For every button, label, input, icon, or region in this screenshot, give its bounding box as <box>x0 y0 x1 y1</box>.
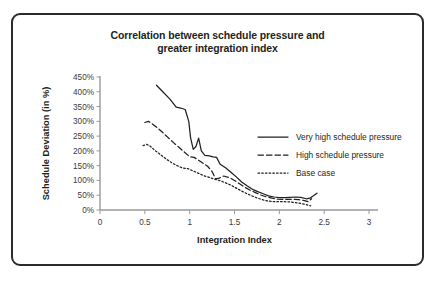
y-axis-tick-label: 250% <box>73 132 94 141</box>
y-axis-tick-label: 150% <box>73 162 94 171</box>
y-axis-tick-label: 50% <box>78 191 94 200</box>
chart-legend: Very high schedule pressureHigh schedule… <box>258 132 402 178</box>
x-axis-tick-label: 1.5 <box>229 218 241 227</box>
chart-figure-frame: Correlation between schedule pressure an… <box>11 13 424 266</box>
line-chart-svg: 0%50%100%150%200%250%300%350%400%450% 00… <box>13 15 426 268</box>
y-axis-tick-label: 350% <box>73 103 94 112</box>
legend-item-label: High schedule pressure <box>296 150 384 160</box>
x-axis-tick-label: 2 <box>277 218 282 227</box>
y-axis-tick-label: 400% <box>73 88 94 97</box>
legend-item-label: Very high schedule pressure <box>296 132 402 142</box>
y-axis-tick-label: 300% <box>73 117 94 126</box>
plot-area: 0%50%100%150%200%250%300%350%400%450% 00… <box>13 15 426 268</box>
x-axis-tick-label: 0 <box>98 218 103 227</box>
series-line-base-case <box>143 144 311 205</box>
x-axis-tick-label: 1 <box>187 218 192 227</box>
series-line-very-high-schedule-pressure <box>156 85 316 198</box>
x-axis: 00.511.522.53 <box>98 210 378 227</box>
legend-item-label: Base case <box>296 168 335 178</box>
y-axis-tick-label: 0% <box>82 206 94 215</box>
x-axis-tick-label: 3 <box>367 218 372 227</box>
x-axis-tick-label: 0.5 <box>139 218 151 227</box>
y-axis-tick-label: 100% <box>73 176 94 185</box>
x-axis-tick-label: 2.5 <box>318 218 330 227</box>
y-axis-tick-label: 450% <box>73 73 94 82</box>
x-axis-title: Integration Index <box>197 235 273 245</box>
data-series-group <box>143 85 317 206</box>
y-axis: 0%50%100%150%200%250%300%350%400%450% <box>73 73 100 215</box>
y-axis-tick-label: 200% <box>73 147 94 156</box>
y-axis-title: Schedule Deviation (in %) <box>41 87 51 201</box>
